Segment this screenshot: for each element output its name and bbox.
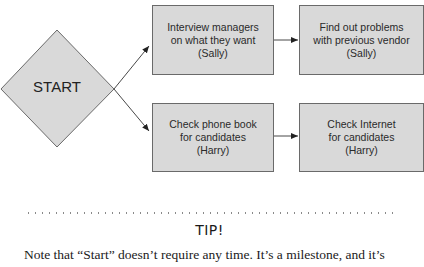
tip-body-text: Note that “Start” doesn’t require any ti… xyxy=(24,247,424,263)
flow-diagram: START Interview managers on what they wa… xyxy=(0,0,419,180)
task-box-check-phone-book: Check phone book for candidates (Harry) xyxy=(152,103,274,172)
task-box-check-internet: Check Internet for candidates (Harry) xyxy=(299,103,424,172)
task-label: Find out problems with previous vendor (… xyxy=(313,21,409,60)
arrow-start-to-phonebook xyxy=(114,89,149,131)
task-label: Check Internet for candidates (Harry) xyxy=(327,118,395,157)
start-label: START xyxy=(17,78,97,95)
tip-heading: TIP! xyxy=(0,222,419,238)
dotted-divider xyxy=(25,212,393,214)
task-label: Check phone book for candidates (Harry) xyxy=(169,118,257,157)
task-box-interview-managers: Interview managers on what they want (Sa… xyxy=(152,5,274,75)
task-box-find-problems: Find out problems with previous vendor (… xyxy=(299,5,424,75)
task-label: Interview managers on what they want (Sa… xyxy=(167,21,259,60)
arrow-start-to-interview xyxy=(114,46,149,89)
